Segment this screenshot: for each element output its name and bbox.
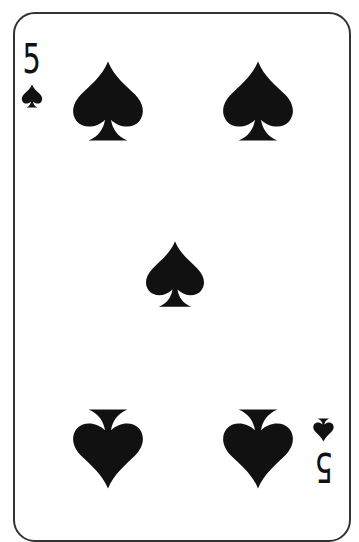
- corner-index-bottom-right: 5: [311, 418, 336, 486]
- spade-icon: [220, 408, 296, 490]
- spade-icon: [144, 235, 206, 313]
- spade-icon: [70, 408, 146, 490]
- spade-icon: [21, 84, 43, 108]
- corner-rank: 5: [23, 40, 41, 78]
- corner-rank: 5: [315, 448, 333, 486]
- spade-icon: [220, 60, 296, 142]
- corner-index-top-left: 5: [19, 40, 44, 108]
- spade-icon: [70, 60, 146, 142]
- spade-icon: [313, 418, 335, 442]
